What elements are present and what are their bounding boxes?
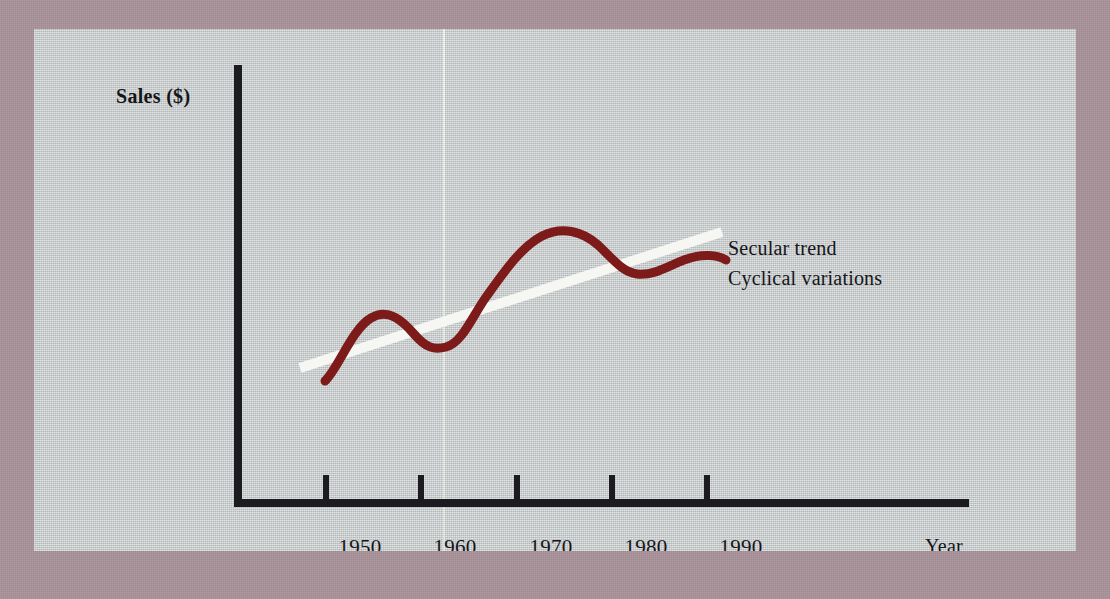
x-tick-label-1980: 1980: [625, 535, 668, 551]
x-tick-label-1970: 1970: [530, 535, 573, 551]
y-axis-line: [234, 65, 242, 506]
plot-panel: Sales ($) Year 1950 1960 1970 1980 1990 …: [34, 29, 1076, 551]
tick-mark-1950: [323, 475, 329, 501]
x-axis-title: Year: [925, 535, 963, 551]
figure-root: Sales ($) Year 1950 1960 1970 1980 1990 …: [0, 0, 1110, 599]
tick-mark-1990: [704, 475, 710, 501]
x-tick-label-1960: 1960: [434, 535, 477, 551]
x-axis-ticks: [323, 475, 710, 501]
x-tick-label-1950: 1950: [339, 535, 382, 551]
y-axis-title: Sales ($): [116, 85, 190, 108]
series-label-secular-trend: Secular trend: [728, 237, 837, 260]
x-tick-label-1990: 1990: [720, 535, 763, 551]
tick-mark-1960: [418, 475, 424, 501]
x-axis-line: [234, 499, 969, 507]
series-line-secular-trend: [300, 232, 722, 368]
series-label-cyclical-variations: Cyclical variations: [728, 267, 882, 290]
tick-mark-1980: [609, 475, 615, 501]
tick-mark-1970: [514, 475, 520, 501]
